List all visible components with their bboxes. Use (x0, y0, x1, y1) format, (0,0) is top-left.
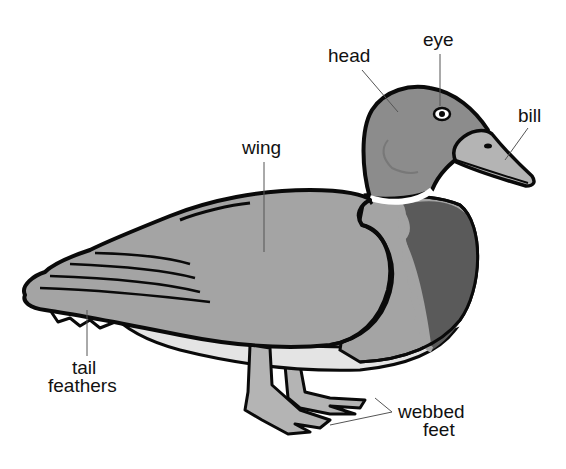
bill-leader (505, 128, 528, 160)
bill (454, 131, 534, 186)
nostril (484, 144, 492, 149)
label-feathers: feathers (48, 376, 117, 396)
label-bill: bill (518, 106, 541, 126)
label-feet: feet (423, 420, 455, 440)
label-head: head (328, 46, 370, 66)
label-eye: eye (423, 30, 454, 50)
duck-illustration (0, 0, 566, 469)
label-wing: wing (242, 138, 281, 158)
eye (434, 108, 450, 120)
duck-diagram: head eye bill wing tail feathers webbed … (0, 0, 566, 469)
